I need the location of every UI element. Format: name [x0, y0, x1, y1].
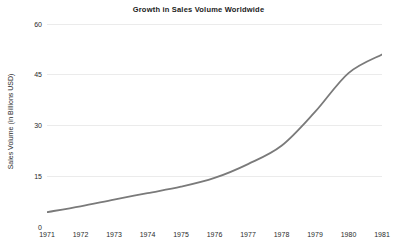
y-tick-label: 60: [16, 21, 42, 28]
plot-area: [47, 24, 382, 227]
plot-svg: [47, 24, 382, 227]
y-tick-label: 15: [16, 173, 42, 180]
x-axis-tick-labels: 1971197219731974197519761977197819791980…: [0, 231, 397, 245]
chart-title: Growth in Sales Volume Worldwide: [0, 5, 397, 14]
y-tick-label: 45: [16, 71, 42, 78]
x-tick-label: 1981: [362, 231, 397, 238]
y-axis-tick-labels: 015304560: [12, 0, 42, 250]
line-chart: Growth in Sales Volume Worldwide Sales V…: [0, 0, 397, 250]
gridlines: [47, 24, 382, 227]
y-tick-label: 30: [16, 122, 42, 129]
sales-volume-line: [47, 54, 382, 212]
y-tick-label: 0: [16, 224, 42, 231]
